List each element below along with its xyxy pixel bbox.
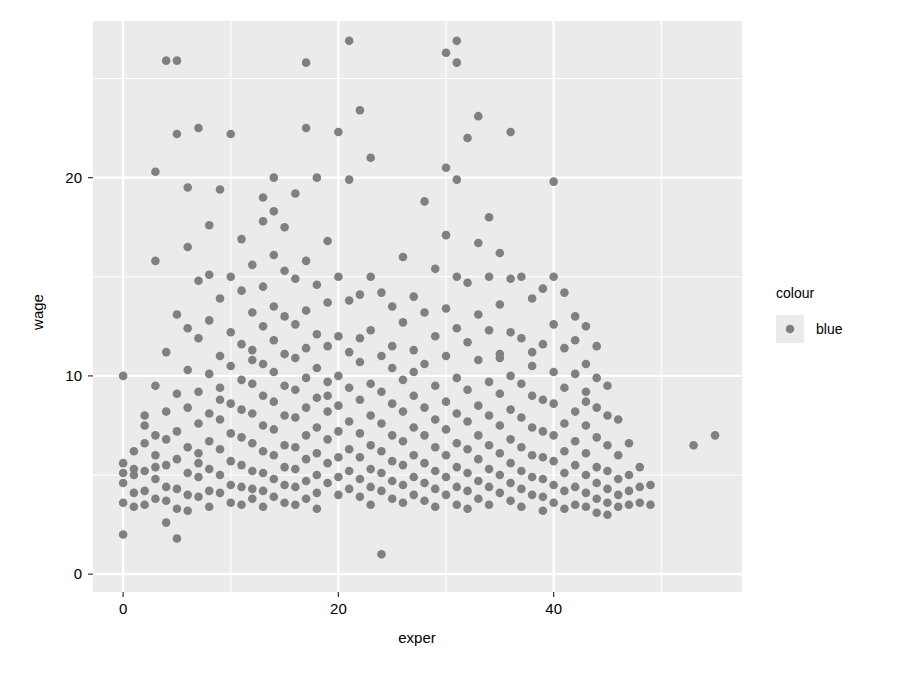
scatter-point — [226, 457, 235, 466]
scatter-point — [173, 534, 182, 543]
scatter-point — [409, 391, 418, 400]
scatter-point — [431, 485, 440, 494]
scatter-point — [474, 112, 483, 121]
scatter-point — [560, 344, 569, 353]
scatter-point — [248, 308, 257, 317]
scatter-point — [259, 193, 268, 202]
scatter-point — [442, 231, 451, 240]
scatter-point — [302, 257, 311, 266]
scatter-point — [313, 423, 322, 432]
scatter-point — [431, 382, 440, 391]
scatter-point — [560, 447, 569, 456]
scatter-point — [625, 500, 634, 509]
scatter-point — [496, 389, 505, 398]
scatter-point — [592, 508, 601, 517]
scatter-point — [496, 354, 505, 363]
y-tick-label: 10 — [65, 367, 82, 384]
scatter-point — [194, 387, 203, 396]
scatter-point — [194, 473, 203, 482]
scatter-point — [582, 502, 591, 511]
scatter-point — [162, 518, 171, 527]
scatter-point — [205, 270, 214, 279]
scatter-point — [151, 463, 160, 472]
scatter-point — [549, 272, 558, 281]
scatter-point — [582, 471, 591, 480]
scatter-point — [377, 469, 386, 478]
scatter-point — [119, 372, 128, 381]
scatter-point — [270, 475, 279, 484]
scatter-point — [431, 415, 440, 424]
scatter-point — [549, 457, 558, 466]
scatter-point — [205, 409, 214, 418]
scatter-point — [248, 261, 257, 270]
scatter-point — [560, 383, 569, 392]
scatter-point — [226, 362, 235, 371]
scatter-point — [528, 491, 537, 500]
scatter-point — [313, 330, 322, 339]
scatter-point — [366, 483, 375, 492]
scatter-point — [592, 495, 601, 504]
scatter-point — [506, 274, 515, 283]
scatter-point — [560, 469, 569, 478]
scatter-point — [291, 274, 300, 283]
scatter-point — [689, 441, 698, 450]
scatter-point — [452, 463, 461, 472]
scatter-point — [496, 300, 505, 309]
scatter-point — [549, 320, 558, 329]
scatter-point — [323, 342, 332, 351]
scatter-point — [420, 197, 429, 206]
scatter-point — [334, 272, 343, 281]
scatter-point — [420, 403, 429, 412]
scatter-point — [291, 465, 300, 474]
scatter-point — [291, 443, 300, 452]
scatter-point — [452, 439, 461, 448]
scatter-point — [399, 481, 408, 490]
scatter-point — [194, 493, 203, 502]
scatter-point — [614, 475, 623, 484]
scatter-point — [237, 483, 246, 492]
scatter-point — [183, 324, 192, 333]
scatter-point — [463, 445, 472, 454]
scatter-point — [280, 498, 289, 507]
y-tick-label: 20 — [65, 169, 82, 186]
scatter-point — [248, 485, 257, 494]
scatter-point — [334, 401, 343, 410]
scatter-point — [237, 461, 246, 470]
scatter-point — [194, 459, 203, 468]
scatter-point — [162, 435, 171, 444]
scatter-point — [140, 411, 149, 420]
scatter-point — [539, 475, 548, 484]
scatter-point — [119, 479, 128, 488]
scatter-point — [517, 502, 526, 511]
scatter-point — [226, 130, 235, 139]
scatter-point — [517, 413, 526, 422]
scatter-point — [345, 175, 354, 184]
scatter-point — [399, 253, 408, 262]
scatter-point — [452, 37, 461, 46]
scatter-point — [313, 471, 322, 480]
scatter-point — [614, 451, 623, 460]
scatter-point — [280, 350, 289, 359]
scatter-point — [431, 332, 440, 341]
scatter-point — [442, 48, 451, 57]
scatter-point — [571, 370, 580, 379]
scatter-point — [216, 415, 225, 424]
scatter-point — [291, 320, 300, 329]
scatter-point — [528, 348, 537, 357]
scatter-point — [162, 348, 171, 357]
scatter-point — [140, 467, 149, 476]
scatter-point — [216, 395, 225, 404]
scatter-point — [539, 340, 548, 349]
scatter-point — [571, 461, 580, 470]
legend-item-label: blue — [816, 321, 843, 337]
scatter-point — [119, 498, 128, 507]
scatter-point — [528, 294, 537, 303]
scatter-point — [270, 397, 279, 406]
scatter-point — [356, 290, 365, 299]
scatter-point — [420, 360, 429, 369]
scatter-point — [496, 489, 505, 498]
scatter-point — [377, 447, 386, 456]
scatter-point — [302, 495, 311, 504]
scatter-point — [452, 500, 461, 509]
scatter-point — [259, 322, 268, 331]
